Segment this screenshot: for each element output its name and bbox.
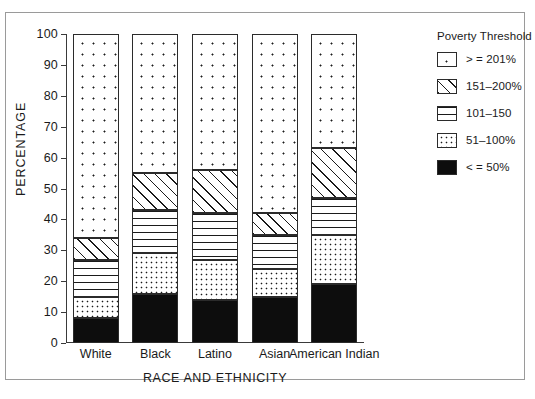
stacked-bar (311, 34, 357, 343)
bar-segment (132, 210, 178, 253)
legend-item: 151–200% (437, 78, 532, 94)
bar-segment (73, 260, 119, 297)
legend-swatch (437, 133, 457, 148)
bar-segment (252, 297, 298, 343)
bar-segment (311, 284, 357, 343)
bar-segment (73, 297, 119, 319)
y-axis-tick-label: 20 (44, 275, 58, 288)
bar-segment (311, 235, 357, 284)
y-axis-tick-label: 30 (44, 244, 58, 257)
bar-segment (192, 170, 238, 213)
legend-item-label: < = 50% (466, 161, 510, 173)
y-axis-tick (61, 281, 66, 282)
bar-segment (192, 34, 238, 170)
legend-item: 101–150 (437, 105, 532, 121)
bar-segment (132, 294, 178, 343)
legend-swatch (437, 106, 457, 121)
legend-swatch (437, 160, 457, 175)
legend-swatch (437, 52, 457, 67)
y-axis-tick-label: 70 (44, 120, 58, 133)
legend-item-label: > = 201% (466, 53, 516, 65)
bar-segment (252, 269, 298, 297)
bar-segment (192, 300, 238, 343)
legend-title: Poverty Threshold (437, 30, 532, 42)
y-axis-tick (61, 250, 66, 251)
bar-segment (192, 260, 238, 300)
y-axis-tick (61, 343, 66, 344)
y-axis-tick (61, 96, 66, 97)
bar-segment (132, 34, 178, 173)
bar-segment (132, 173, 178, 210)
y-axis-line (66, 34, 67, 343)
y-axis-tick-label: 60 (44, 151, 58, 164)
y-axis-tick (61, 34, 66, 35)
x-axis-label: RACE AND ETHNICITY (66, 371, 364, 385)
legend-item: < = 50% (437, 159, 532, 175)
stacked-bar (73, 34, 119, 343)
stacked-bar (132, 34, 178, 343)
bar-segment (311, 198, 357, 235)
y-axis-tick-label: 40 (44, 213, 58, 226)
bar-segment (252, 34, 298, 213)
stacked-bar (192, 34, 238, 343)
bar-segment (73, 34, 119, 238)
legend-item-label: 51–100% (466, 134, 515, 146)
y-axis-tick-label: 90 (44, 59, 58, 72)
x-axis-category-label: American Indian (264, 347, 404, 361)
y-axis-tick-label: 50 (44, 182, 58, 195)
legend-item: > = 201% (437, 51, 532, 67)
legend-item-label: 151–200% (466, 80, 522, 92)
y-axis-tick (61, 127, 66, 128)
y-axis-tick (61, 189, 66, 190)
bar-segment (252, 235, 298, 269)
stacked-bar (252, 34, 298, 343)
bar-segment (252, 213, 298, 235)
y-axis-tick-label: 10 (44, 306, 58, 319)
chart-figure: PERCENTAGE RACE AND ETHNICITY 0102030405… (0, 0, 535, 399)
bar-segment (311, 148, 357, 197)
legend-item-label: 101–150 (466, 107, 511, 119)
y-axis-tick (61, 219, 66, 220)
y-axis-tick-label: 80 (44, 90, 58, 103)
bar-segment (311, 34, 357, 148)
bar-segment (132, 253, 178, 293)
legend-item: 51–100% (437, 132, 532, 148)
y-axis-tick (61, 65, 66, 66)
legend: Poverty Threshold > = 201%151–200%101–15… (437, 30, 532, 186)
y-axis-tick-label: 100 (37, 28, 58, 41)
legend-swatch (437, 79, 457, 94)
bar-segment (73, 238, 119, 260)
plot-area: 0102030405060708090100 WhiteBlackLatinoA… (66, 34, 364, 343)
y-axis-label: PERCENTAGE (14, 102, 28, 196)
y-axis-tick (61, 312, 66, 313)
bar-segment (192, 213, 238, 259)
bar-segment (73, 318, 119, 343)
y-axis-tick (61, 158, 66, 159)
